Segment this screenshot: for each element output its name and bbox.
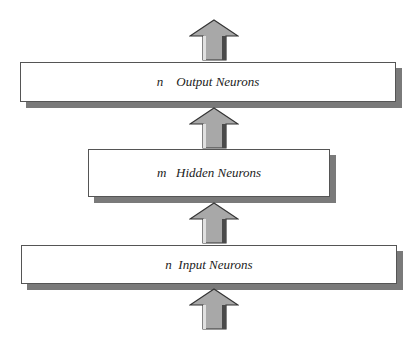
hidden-layer-box: m Hidden Neurons (88, 149, 330, 197)
up-arrow-icon (189, 202, 239, 244)
hidden-layer-label: m Hidden Neurons (157, 165, 261, 181)
up-arrow-icon (189, 19, 239, 61)
input-layer-label: n Input Neurons (165, 257, 252, 273)
input-layer-box: n Input Neurons (21, 245, 397, 284)
output-layer-box: n Output Neurons (20, 62, 396, 102)
output-layer-label: n Output Neurons (157, 74, 259, 90)
up-arrow-icon (189, 288, 239, 330)
up-arrow-icon (189, 107, 239, 149)
